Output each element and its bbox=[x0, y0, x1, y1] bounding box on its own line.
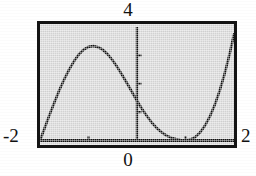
plot-window bbox=[37, 21, 237, 148]
plot-canvas bbox=[40, 24, 234, 145]
x-min-label: -2 bbox=[3, 126, 19, 145]
origin-label: 0 bbox=[0, 150, 256, 169]
x-max-label: 2 bbox=[241, 126, 251, 145]
graph-figure: 4 -2 2 0 bbox=[0, 0, 256, 176]
y-max-label: 4 bbox=[0, 0, 256, 19]
